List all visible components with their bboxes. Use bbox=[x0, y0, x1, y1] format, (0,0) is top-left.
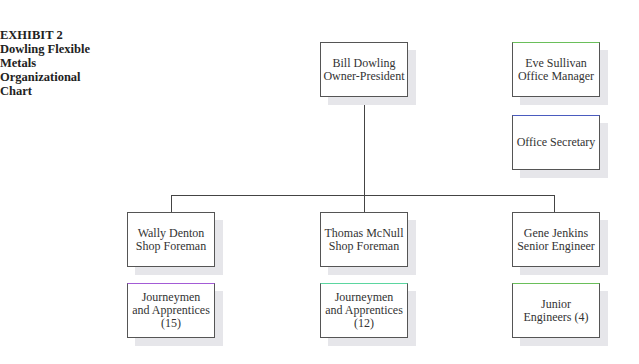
connector-horizontal bbox=[171, 195, 555, 196]
node-count: (12) bbox=[354, 317, 374, 330]
node-line: Engineers (4) bbox=[524, 311, 589, 324]
title-line-3: Organizational bbox=[0, 70, 130, 84]
connector-senior-engineer bbox=[554, 195, 555, 212]
node-role: Owner-President bbox=[323, 70, 404, 83]
node-role: Office Secretary bbox=[517, 136, 596, 149]
node-name: Bill Dowling bbox=[332, 57, 395, 70]
node-name: Thomas McNull bbox=[325, 227, 404, 240]
exhibit-label: EXHIBIT 2 bbox=[0, 28, 130, 42]
node-office-secretary: Office Secretary bbox=[512, 115, 600, 170]
exhibit-title: EXHIBIT 2 Dowling Flexible Metals Organi… bbox=[0, 28, 130, 98]
title-line-4: Chart bbox=[0, 84, 130, 98]
node-journeymen-15: Journeymen and Apprentices (15) bbox=[127, 283, 215, 338]
title-line-2: Metals bbox=[0, 56, 130, 70]
node-name: Eve Sullivan bbox=[525, 57, 587, 70]
node-senior-engineer: Gene Jenkins Senior Engineer bbox=[512, 212, 600, 267]
node-journeymen-12: Journeymen and Apprentices (12) bbox=[320, 283, 408, 338]
node-role: Shop Foreman bbox=[136, 240, 206, 253]
connector-foreman2 bbox=[364, 195, 365, 212]
node-role: Senior Engineer bbox=[517, 240, 595, 253]
node-junior-engineers: Junior Engineers (4) bbox=[512, 283, 600, 338]
node-shop-foreman-denton: Wally Denton Shop Foreman bbox=[127, 212, 215, 267]
node-role: Shop Foreman bbox=[329, 240, 399, 253]
node-owner-president: Bill Dowling Owner-President bbox=[320, 42, 408, 97]
node-line: Junior bbox=[541, 298, 571, 311]
node-role: Office Manager bbox=[518, 70, 594, 83]
connector-foreman1 bbox=[171, 195, 172, 212]
connector-owner-down bbox=[364, 97, 365, 195]
node-office-manager: Eve Sullivan Office Manager bbox=[512, 42, 600, 97]
title-line-1: Dowling Flexible bbox=[0, 42, 130, 56]
node-name: Gene Jenkins bbox=[524, 227, 588, 240]
node-count: (15) bbox=[161, 317, 181, 330]
node-name: Wally Denton bbox=[138, 227, 205, 240]
node-shop-foreman-mcnull: Thomas McNull Shop Foreman bbox=[320, 212, 408, 267]
